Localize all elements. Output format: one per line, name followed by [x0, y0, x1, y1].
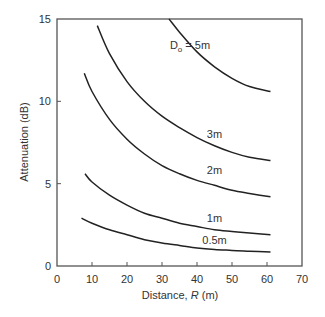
curve-label: 0.5m: [202, 234, 226, 246]
curve-label: 1m: [207, 212, 222, 224]
x-tick-label: 10: [86, 273, 98, 285]
y-tick-label: 10: [39, 95, 51, 107]
x-tick-label: 0: [54, 273, 60, 285]
x-tick-label: 70: [296, 273, 308, 285]
curve-label: Do = 5m: [170, 39, 210, 54]
curve-do-5m: [169, 19, 271, 92]
attenuation-curves: [82, 19, 271, 252]
curve-label: 2m: [207, 164, 222, 176]
x-tick-label: 60: [261, 273, 273, 285]
y-tick-label: 0: [45, 260, 51, 272]
y-tick-label: 15: [39, 13, 51, 25]
curve-0.5m: [82, 218, 271, 252]
curve-1m: [85, 174, 271, 235]
x-tick-label: 50: [226, 273, 238, 285]
x-tick-label: 30: [156, 273, 168, 285]
y-axis-ticks: 051015: [39, 13, 61, 272]
y-tick-label: 5: [45, 178, 51, 190]
x-axis-title: Distance, R (m): [142, 289, 218, 301]
plot-axes: [57, 19, 302, 266]
y-axis-title: Attenuation (dB): [18, 102, 30, 182]
curve-label: 3m: [207, 128, 222, 140]
plot-frame: [57, 19, 302, 266]
attenuation-vs-distance-chart: 010203040506070 051015 Do = 5m3m2m1m0.5m…: [0, 0, 325, 317]
x-tick-label: 40: [191, 273, 203, 285]
x-tick-label: 20: [121, 273, 133, 285]
curve-2m: [84, 73, 270, 197]
